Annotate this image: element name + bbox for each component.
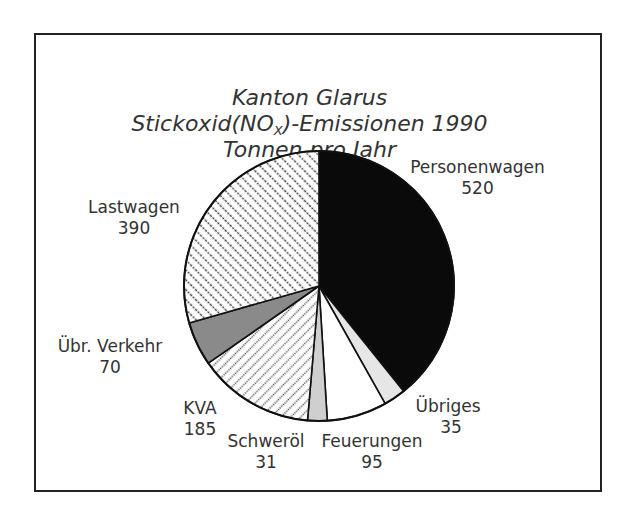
label-lastwagen: Lastwagen 390 [84, 197, 184, 239]
label-uebriges: Übriges 35 [400, 396, 496, 438]
label-uebr-verkehr: Übr. Verkehr 70 [48, 336, 172, 378]
label-schweroel: Schweröl 31 [220, 431, 312, 473]
label-personenwagen: Personenwagen 520 [400, 157, 555, 199]
label-kva: KVA 185 [178, 398, 222, 440]
